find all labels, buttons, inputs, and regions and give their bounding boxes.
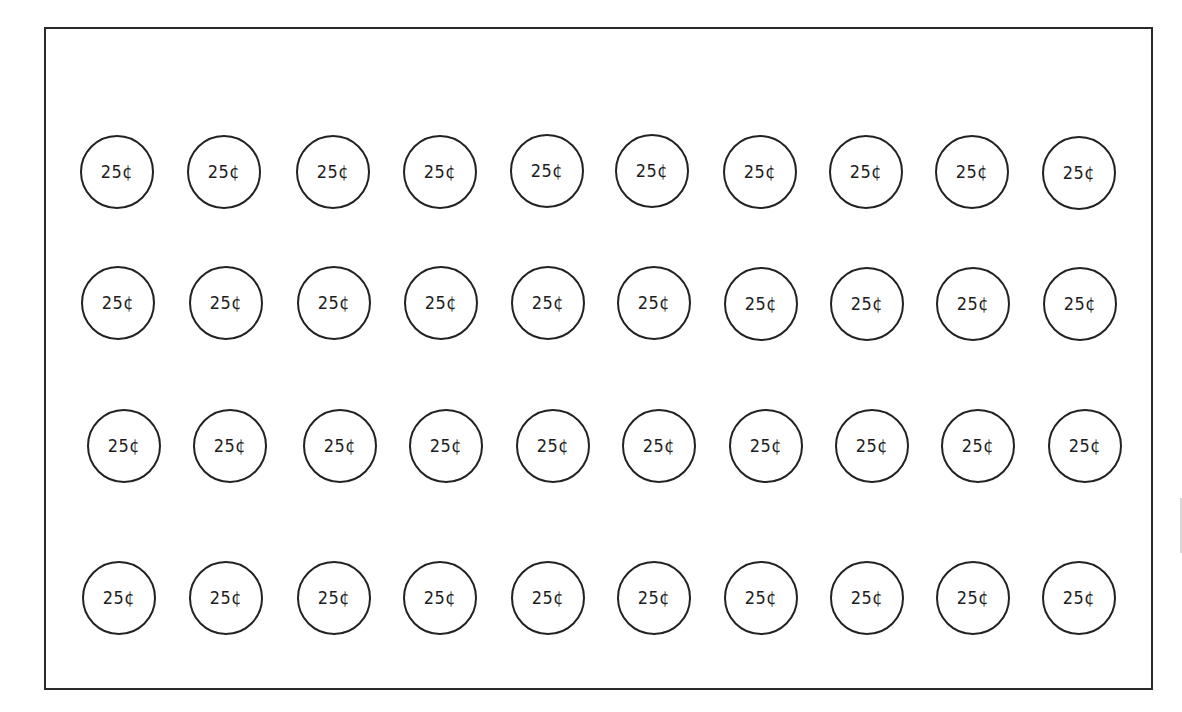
quarter-coin: 25¢ (830, 561, 904, 635)
quarter-coin: 25¢ (87, 409, 161, 483)
quarter-coin: 25¢ (81, 266, 155, 340)
coin-value-label: 25¢ (318, 588, 350, 608)
coin-value-label: 25¢ (108, 436, 140, 456)
coin-value-label: 25¢ (1063, 588, 1095, 608)
quarter-coin: 25¢ (187, 135, 261, 209)
quarter-coin: 25¢ (835, 409, 909, 483)
quarter-coin: 25¢ (936, 267, 1010, 341)
coin-value-label: 25¢ (957, 588, 989, 608)
quarter-coin: 25¢ (510, 134, 584, 208)
quarter-coin: 25¢ (82, 561, 156, 635)
coin-value-label: 25¢ (956, 162, 988, 182)
coin-value-label: 25¢ (208, 162, 240, 182)
quarter-coin: 25¢ (1042, 136, 1116, 210)
quarter-coin: 25¢ (615, 134, 689, 208)
coin-value-label: 25¢ (643, 436, 675, 456)
coin-value-label: 25¢ (532, 293, 564, 313)
coin-value-label: 25¢ (850, 162, 882, 182)
coin-value-label: 25¢ (851, 588, 883, 608)
coin-value-label: 25¢ (962, 436, 994, 456)
quarter-coin: 25¢ (724, 561, 798, 635)
coin-value-label: 25¢ (1064, 294, 1096, 314)
quarter-coin: 25¢ (303, 409, 377, 483)
coin-value-label: 25¢ (636, 161, 668, 181)
coin-value-label: 25¢ (750, 436, 782, 456)
quarter-coin: 25¢ (1043, 267, 1117, 341)
coin-value-label: 25¢ (424, 588, 456, 608)
quarter-coin: 25¢ (409, 409, 483, 483)
coin-value-label: 25¢ (103, 588, 135, 608)
quarter-coin: 25¢ (297, 266, 371, 340)
coin-value-label: 25¢ (744, 162, 776, 182)
coin-value-label: 25¢ (957, 294, 989, 314)
quarter-coin: 25¢ (80, 135, 154, 209)
coin-value-label: 25¢ (318, 293, 350, 313)
quarter-coin: 25¢ (297, 561, 371, 635)
coin-value-label: 25¢ (324, 436, 356, 456)
quarter-coin: 25¢ (516, 409, 590, 483)
coin-value-label: 25¢ (102, 293, 134, 313)
coin-value-label: 25¢ (1063, 163, 1095, 183)
coin-value-label: 25¢ (745, 588, 777, 608)
quarter-coin: 25¢ (941, 409, 1015, 483)
coin-value-label: 25¢ (638, 293, 670, 313)
coin-value-label: 25¢ (1069, 436, 1101, 456)
quarter-coin: 25¢ (830, 267, 904, 341)
coin-value-label: 25¢ (214, 436, 246, 456)
quarter-coin: 25¢ (617, 266, 691, 340)
quarter-coin: 25¢ (723, 135, 797, 209)
coin-value-label: 25¢ (638, 588, 670, 608)
coin-value-label: 25¢ (430, 436, 462, 456)
quarter-coin: 25¢ (1048, 409, 1122, 483)
quarter-coin: 25¢ (729, 409, 803, 483)
coin-value-label: 25¢ (210, 293, 242, 313)
coin-value-label: 25¢ (424, 162, 456, 182)
coin-value-label: 25¢ (210, 588, 242, 608)
quarter-coin: 25¢ (403, 135, 477, 209)
coin-value-label: 25¢ (537, 436, 569, 456)
quarter-coin: 25¢ (189, 561, 263, 635)
coin-value-label: 25¢ (317, 162, 349, 182)
coin-value-label: 25¢ (745, 294, 777, 314)
quarter-coin: 25¢ (622, 409, 696, 483)
coin-value-label: 25¢ (425, 293, 457, 313)
quarter-coin: 25¢ (296, 135, 370, 209)
quarter-coin: 25¢ (936, 561, 1010, 635)
quarter-coin: 25¢ (829, 135, 903, 209)
quarter-coin: 25¢ (617, 561, 691, 635)
quarter-coin: 25¢ (935, 135, 1009, 209)
coin-value-label: 25¢ (856, 436, 888, 456)
coin-value-label: 25¢ (851, 294, 883, 314)
quarter-coin: 25¢ (511, 266, 585, 340)
quarter-coin: 25¢ (404, 266, 478, 340)
quarter-coin: 25¢ (189, 266, 263, 340)
quarter-coin: 25¢ (1042, 561, 1116, 635)
quarter-coin: 25¢ (724, 267, 798, 341)
quarter-coin: 25¢ (403, 561, 477, 635)
coin-value-label: 25¢ (532, 588, 564, 608)
coin-value-label: 25¢ (101, 162, 133, 182)
quarter-coin: 25¢ (511, 561, 585, 635)
quarter-coin: 25¢ (193, 409, 267, 483)
coin-value-label: 25¢ (531, 161, 563, 181)
